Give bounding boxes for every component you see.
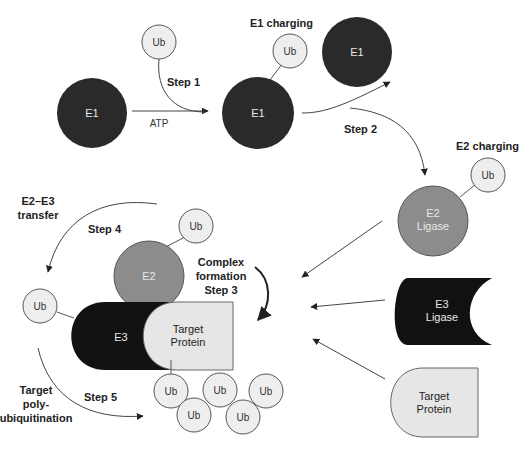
protein-label: Protein [171,336,206,348]
e1-label: E1 [350,46,363,58]
e1-charging-label: E1 charging [250,17,313,29]
complex-label-1: Complex [198,256,245,268]
e3-label: E3 [435,298,448,310]
step3-arrow [255,267,268,320]
ubiquitin-on-e1: Ub [273,34,307,68]
poly-ubiquitin-chain: Ub Ub Ub Ub Ub [154,373,283,434]
poly-label-1: Target [20,384,53,396]
ub-label: Ub [165,386,178,397]
target-label: Target [173,323,204,335]
ub-label: Ub [188,410,201,421]
ub-label: Ub [34,301,47,312]
e2e3-label-1: E2–E3 [21,195,54,207]
e2-ligase: E2 Ligase [398,186,468,256]
ligase-label: Ligase [417,220,449,232]
target-to-complex-arrow [313,339,385,379]
ubiquitin-on-e2: Ub [471,158,505,192]
complex-ubiquitin: Ub [179,209,213,243]
complex-e2: E2 [114,241,184,311]
complex-label-2: formation [196,270,247,282]
ubiquitin-free: Ub [142,25,176,59]
ubiquitin: Ub [226,400,260,434]
e2e3-label-2: transfer [18,209,60,221]
ub-label: Ub [153,37,166,48]
complex-label-3: Step 3 [204,284,237,296]
target-protein: Target Protein [391,368,478,437]
step4-label: Step 4 [88,223,122,235]
step5-label: Step 5 [84,391,117,403]
step2-arrow [350,108,425,175]
e3-ligase: E3 Ligase [395,278,492,345]
ligase-label: Ligase [426,311,458,323]
transferred-ubiquitin: Ub [23,289,57,323]
ubiquitin: Ub [177,398,211,432]
poly-label-3: ubiquitination [0,412,73,424]
ub-bond [57,312,74,318]
e1-release-arrow [302,82,390,113]
step2-label: Step 2 [344,123,377,135]
ub-label: Ub [237,412,250,423]
e3-label: E3 [114,331,127,343]
atp-label: ATP [150,118,169,129]
ubiquitination-diagram: E1 Ub ATP Step 1 E1 charging Ub E1 Step … [0,0,524,450]
ub-label: Ub [190,221,203,232]
ub-label: Ub [482,170,495,181]
e1-enzyme-charged: E1 [222,77,294,149]
target-label: Target [419,390,450,402]
ub-label: Ub [284,46,297,57]
ubiquitin: Ub [203,373,237,407]
e2-to-complex-arrow [302,221,382,277]
e2-charging-label: E2 charging [456,140,519,152]
e3-to-complex-arrow [311,300,385,307]
e1-label: E1 [251,107,264,119]
e2-label: E2 [142,270,155,282]
ub-label: Ub [260,386,273,397]
complex-target-protein: Target Protein [143,302,233,370]
ub-bond [270,64,282,80]
ubiquitin: Ub [249,374,283,408]
e2-label: E2 [426,207,439,219]
step1-label: Step 1 [167,76,200,88]
e1-enzyme-start: E1 [57,78,127,148]
protein-label: Protein [417,403,452,415]
poly-label-2: poly- [23,398,50,410]
ub-bond [460,184,476,197]
e1-enzyme-released: E1 [322,17,392,87]
e1-label: E1 [85,107,98,119]
ub-label: Ub [214,385,227,396]
